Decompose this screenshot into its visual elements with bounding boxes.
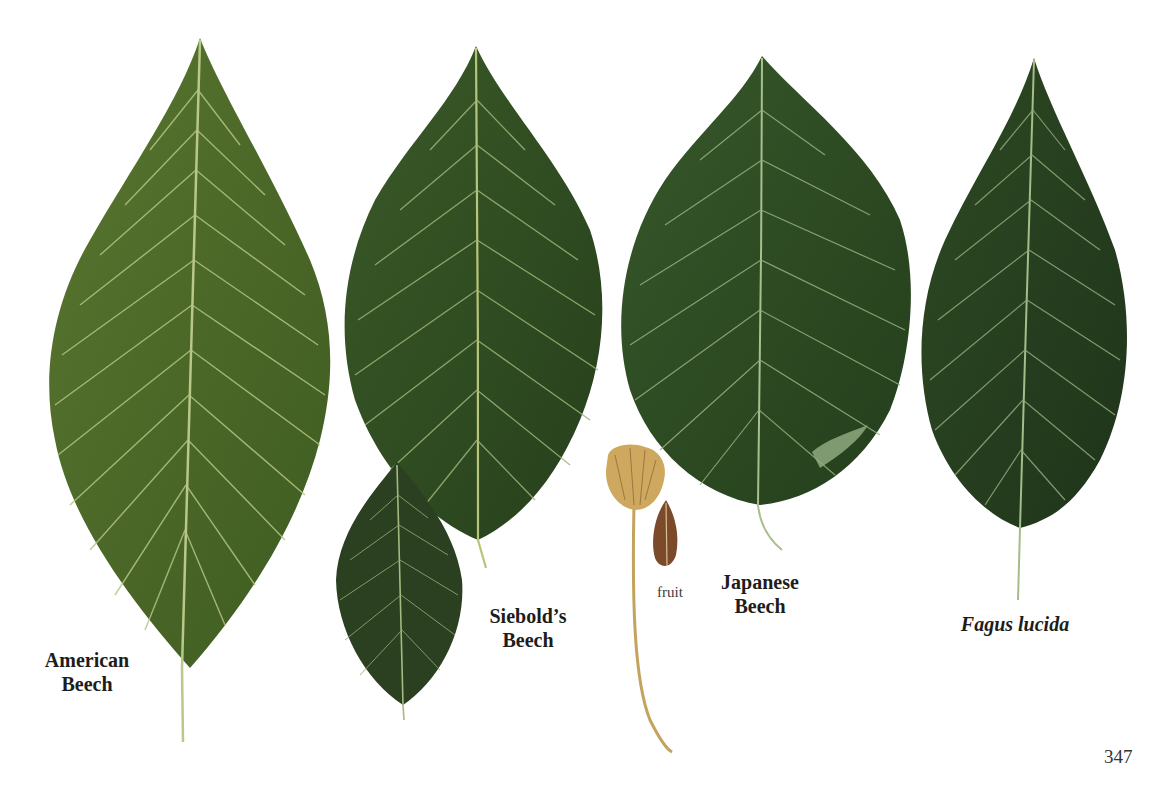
label-line: Beech	[468, 628, 588, 652]
label-line: Japanese	[700, 570, 820, 594]
label-american-beech: American Beech	[22, 648, 152, 696]
label-line: American	[22, 648, 152, 672]
label-line: Beech	[700, 594, 820, 618]
label-fruit: fruit	[650, 580, 690, 604]
fagus-lucida-leaf	[921, 58, 1127, 600]
label-line: Fagus lucida	[940, 612, 1090, 636]
label-line: Beech	[22, 672, 152, 696]
label-line: Siebold’s	[468, 604, 588, 628]
label-siebolds-beech: Siebold’s Beech	[468, 604, 588, 652]
leaf-illustration-plate	[0, 0, 1166, 799]
label-fagus-lucida: Fagus lucida	[940, 612, 1090, 636]
label-japanese-beech: Japanese Beech	[700, 570, 820, 618]
label-line: fruit	[650, 580, 690, 604]
american-beech-leaf	[49, 38, 330, 742]
page-number: 347	[1104, 746, 1133, 768]
